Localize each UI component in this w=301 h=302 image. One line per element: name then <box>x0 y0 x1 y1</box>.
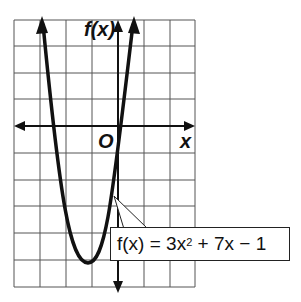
curve-right-arrow-icon <box>128 16 140 34</box>
y-axis-label: f(x) <box>84 18 115 41</box>
equation-suffix: + 7x − 1 <box>192 233 266 255</box>
equation-exponent: 2 <box>186 236 192 248</box>
equation-prefix: f(x) = 3x <box>117 233 186 255</box>
callout-pointer <box>114 196 148 229</box>
equation-callout: f(x) = 3x2 + 7x − 1 <box>110 227 290 261</box>
x-axis-label: x <box>180 130 191 153</box>
curve-left-arrow-icon <box>36 16 48 34</box>
x-axis-left-arrow-icon <box>14 121 25 131</box>
origin-label: O <box>98 130 114 153</box>
